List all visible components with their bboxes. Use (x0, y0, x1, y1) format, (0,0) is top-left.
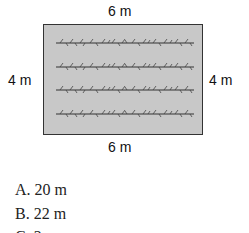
option-text: 20 m (35, 181, 67, 198)
left-width-label: 4 m (8, 73, 31, 87)
plant-row-icon (56, 109, 194, 119)
plant-row-icon (56, 38, 194, 48)
bottom-length-label: 6 m (108, 140, 131, 154)
option-text: 2… (34, 228, 58, 233)
option-text: 22 m (34, 205, 66, 222)
plant-row-icon (56, 62, 194, 72)
option-letter: C. (15, 228, 30, 233)
option-b[interactable]: B. 22 m (15, 206, 66, 222)
option-c[interactable]: C. 2… (15, 229, 58, 233)
option-letter: B. (15, 205, 30, 222)
option-letter: A. (15, 181, 31, 198)
plant-row-icon (56, 85, 194, 95)
top-length-label: 6 m (108, 4, 131, 18)
right-width-label: 4 m (209, 73, 232, 87)
option-a[interactable]: A. 20 m (15, 182, 67, 198)
